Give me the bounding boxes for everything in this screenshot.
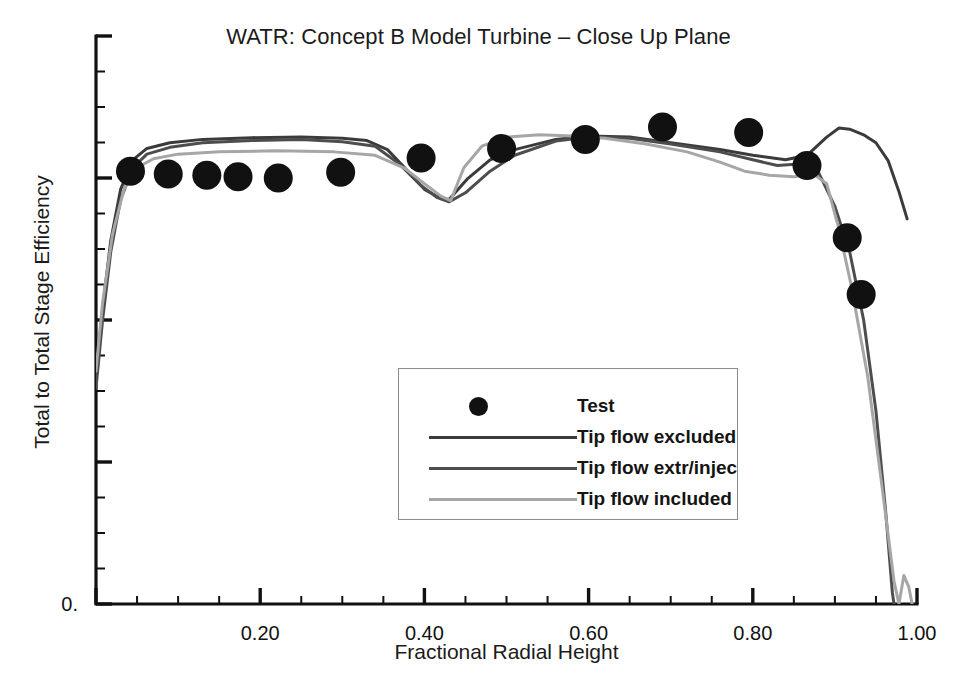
test-data-point (648, 112, 677, 141)
legend-item-2: Tip flow extr/injec (399, 453, 737, 483)
legend-line-icon (429, 498, 577, 501)
test-data-point (571, 125, 600, 154)
legend-symbol-line (421, 484, 561, 514)
legend-label: Tip flow excluded (577, 426, 736, 448)
legend-label: Tip flow included (577, 488, 732, 510)
series-layer (96, 128, 912, 604)
chart-figure: WATR: Concept B Model Turbine – Close Up… (0, 0, 957, 682)
test-data-point (154, 160, 183, 189)
x-axis-label: Fractional Radial Height (96, 640, 917, 664)
test-data-point (847, 280, 876, 309)
test-data-point (407, 144, 436, 173)
legend-item-0: Test (399, 391, 737, 421)
legend-symbol-marker (421, 391, 561, 421)
legend-line-icon (429, 467, 577, 470)
test-data-point (264, 164, 293, 193)
test-data-point (487, 134, 516, 163)
legend-label: Tip flow extr/injec (577, 457, 737, 479)
test-data-point (833, 223, 862, 252)
test-data-point (734, 118, 763, 147)
test-data-point (116, 157, 145, 186)
test-data-point (326, 158, 355, 187)
test-data-point (192, 161, 221, 190)
test-data-point (224, 162, 253, 191)
legend-item-1: Tip flow excluded (399, 422, 737, 452)
chart-legend: TestTip flow excludedTip flow extr/injec… (398, 368, 738, 520)
plot-canvas: 0.200.400.600.801.000. (0, 0, 957, 682)
tick-labels-layer: 0.200.400.600.801.000. (61, 593, 936, 644)
legend-item-3: Tip flow included (399, 484, 737, 514)
y-tick-label: 0. (61, 593, 78, 615)
legend-dot-icon (469, 397, 488, 416)
legend-label: Test (577, 395, 615, 417)
legend-symbol-line (421, 453, 561, 483)
test-data-point (792, 151, 821, 180)
legend-line-icon (429, 436, 577, 439)
legend-symbol-line (421, 422, 561, 452)
